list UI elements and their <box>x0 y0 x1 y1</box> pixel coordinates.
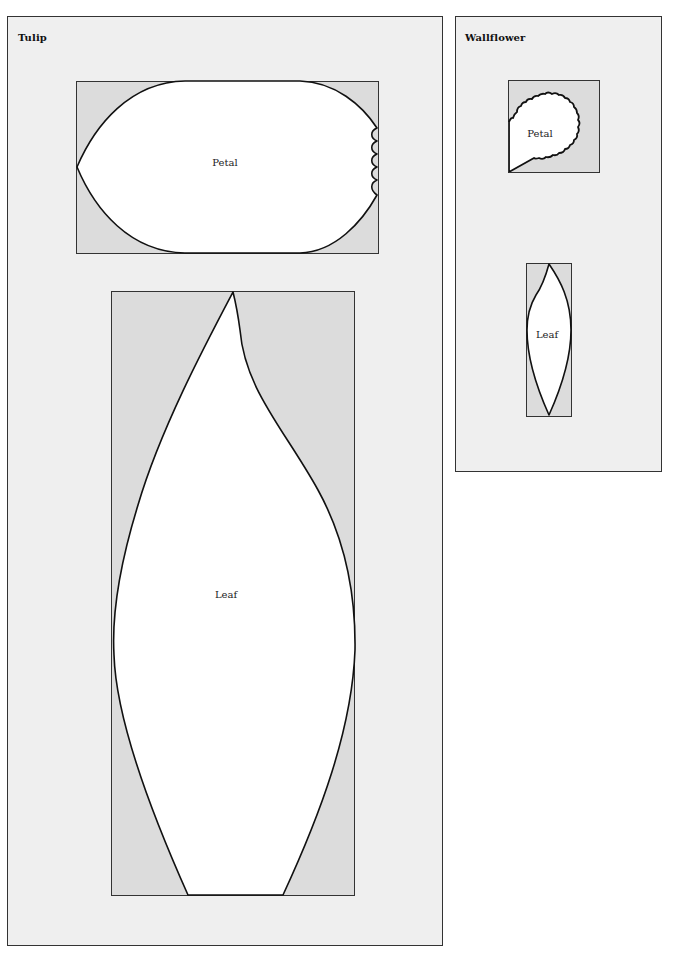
tulip-petal-label: Petal <box>212 157 237 168</box>
tulip-leaf-label: Leaf <box>215 589 237 600</box>
wallflower-title: Wallflower <box>465 32 525 43</box>
tulip-panel: Tulip <box>7 16 443 946</box>
tulip-title: Tulip <box>18 32 47 43</box>
wallflower-leaf-label: Leaf <box>536 329 558 340</box>
wallflower-petal-label: Petal <box>527 128 552 139</box>
wallflower-panel: Wallflower <box>455 16 662 472</box>
